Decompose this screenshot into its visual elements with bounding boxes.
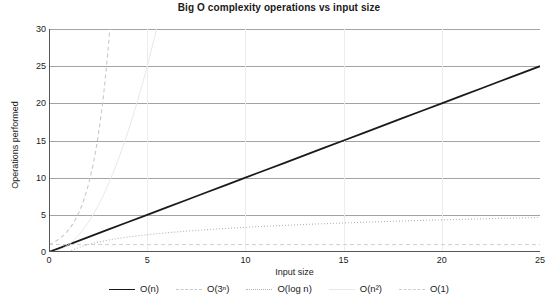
- plot-svg: [49, 29, 540, 252]
- legend-label-o-n-2: O(n²): [360, 283, 382, 294]
- series-o-log-n: [69, 217, 540, 252]
- x-tick-label-15: 15: [339, 255, 349, 265]
- legend-label-o-3-n: O(3ⁿ): [207, 283, 229, 294]
- y-axis-tick-labels: 0 5 10 15 20 25 30: [0, 0, 46, 307]
- legend-item-o-n-2[interactable]: O(n²): [329, 283, 382, 294]
- y-tick-label-0: 0: [2, 247, 46, 257]
- legend-item-o-n[interactable]: O(n): [109, 283, 159, 294]
- y-axis-title: Operations performed: [10, 85, 20, 205]
- legend-swatch-o-log-n: [246, 285, 272, 293]
- y-tick-label-5: 5: [2, 210, 46, 220]
- legend-label-o-log-n: O(log n): [277, 283, 311, 294]
- series-o-3-n: [49, 29, 110, 245]
- legend-swatch-o-n: [109, 285, 135, 293]
- legend-swatch-o-1: [399, 285, 425, 293]
- y-tick-label-30: 30: [2, 24, 46, 34]
- y-tick-label-25: 25: [2, 61, 46, 71]
- x-axis-title: Input size: [49, 267, 540, 277]
- x-tick-label-20: 20: [437, 255, 447, 265]
- series-o-n-2: [49, 29, 158, 252]
- y-tick-label-15: 15: [2, 136, 46, 146]
- plot-area: [49, 29, 540, 252]
- legend-label-o-n: O(n): [140, 283, 159, 294]
- legend-label-o-1: O(1): [430, 283, 449, 294]
- x-tick-label-10: 10: [240, 255, 250, 265]
- x-tick-label-0: 0: [46, 255, 51, 265]
- y-tick-label-20: 20: [2, 98, 46, 108]
- legend-item-o-log-n[interactable]: O(log n): [246, 283, 311, 294]
- x-tick-label-5: 5: [145, 255, 150, 265]
- series-curves: [49, 29, 540, 252]
- legend-item-o-1[interactable]: O(1): [399, 283, 449, 294]
- legend-swatch-o-n-2: [329, 285, 355, 293]
- big-o-complexity-chart: Big O complexity operations vs input siz…: [0, 0, 558, 307]
- series-o-n: [49, 66, 540, 252]
- y-tick-label-10: 10: [2, 173, 46, 183]
- x-tick-label-25: 25: [535, 255, 545, 265]
- chart-legend: O(n) O(3ⁿ) O(log n) O(n²) O(1): [0, 283, 558, 294]
- legend-swatch-o-3-n: [176, 285, 202, 293]
- horizontal-gridlines: [49, 30, 540, 253]
- legend-item-o-3-n[interactable]: O(3ⁿ): [176, 283, 229, 294]
- chart-title: Big O complexity operations vs input siz…: [0, 2, 558, 13]
